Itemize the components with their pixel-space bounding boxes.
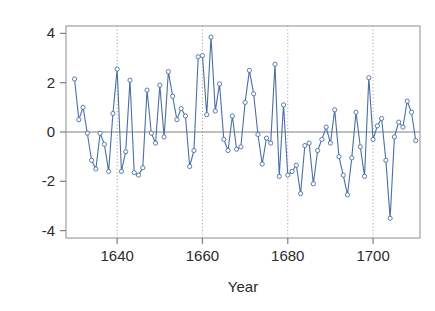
data-point [367,76,371,80]
data-point [230,114,234,118]
x-tick-label-1660: 1660 [186,247,219,264]
data-point [149,131,153,135]
data-point [388,216,392,220]
data-point [345,193,349,197]
data-point [183,114,187,118]
data-point [405,99,409,103]
y-tick-label-0: 0 [47,123,55,140]
data-point [77,118,81,122]
data-point [311,182,315,186]
data-point [273,62,277,66]
data-point [200,53,204,57]
data-point [277,174,281,178]
data-point [196,55,200,59]
data-point [358,145,362,149]
data-point [252,92,256,96]
data-point [85,131,89,135]
data-point [337,155,341,159]
data-point [264,136,268,140]
data-point [320,137,324,141]
data-point [205,113,209,117]
line-chart: -4-2024 1640166016801700 Year [0,0,435,311]
y-tick-label-4: 4 [47,24,55,41]
data-point [209,35,213,39]
data-point [269,141,273,145]
data-point [98,131,102,135]
data-point [141,166,145,170]
data-point [217,82,221,86]
data-point [102,142,106,146]
data-point [72,77,76,81]
data-point [124,150,128,154]
data-point [294,163,298,167]
data-point [333,108,337,112]
data-point [354,110,358,114]
data-point [119,169,123,173]
data-point [281,103,285,107]
data-point [260,162,264,166]
data-point [107,169,111,173]
x-tick-label-1640: 1640 [100,247,133,264]
data-point [175,118,179,122]
y-tick-label-2: 2 [47,74,55,91]
data-point [375,124,379,128]
data-point [341,173,345,177]
data-point [94,167,98,171]
data-point [171,94,175,98]
data-point [132,171,136,175]
data-point [307,141,311,145]
data-point [362,174,366,178]
data-point [89,158,93,162]
data-point [111,111,115,115]
data-point [188,164,192,168]
data-point [392,135,396,139]
data-point [409,110,413,114]
data-point [256,132,260,136]
data-point [328,141,332,145]
data-point [136,173,140,177]
data-point [153,141,157,145]
data-point [226,148,230,152]
x-tick-label-1680: 1680 [271,247,304,264]
data-point [166,70,170,74]
y-tick-label--2: -2 [42,172,55,189]
data-point [414,139,418,143]
data-point [350,156,354,160]
data-point [243,100,247,104]
data-point [324,125,328,129]
data-point [303,143,307,147]
data-point [401,125,405,129]
data-point [145,88,149,92]
data-point [213,109,217,113]
y-tick-label--4: -4 [42,222,55,239]
data-point [222,137,226,141]
data-point [384,158,388,162]
chart-figure: -4-2024 1640166016801700 Year [0,0,435,311]
data-point [239,145,243,149]
data-point [371,137,375,141]
data-point [115,67,119,71]
data-point [298,192,302,196]
data-point [158,83,162,87]
data-point [162,135,166,139]
x-tick-label-1700: 1700 [356,247,389,264]
data-point [316,148,320,152]
chart-background [0,0,435,311]
data-point [247,68,251,72]
data-point [397,120,401,124]
data-point [380,116,384,120]
x-axis-title: Year [228,278,258,295]
data-point [286,173,290,177]
data-point [179,106,183,110]
data-point [192,148,196,152]
data-point [235,147,239,151]
data-point [290,169,294,173]
data-point [81,105,85,109]
data-point [128,78,132,82]
